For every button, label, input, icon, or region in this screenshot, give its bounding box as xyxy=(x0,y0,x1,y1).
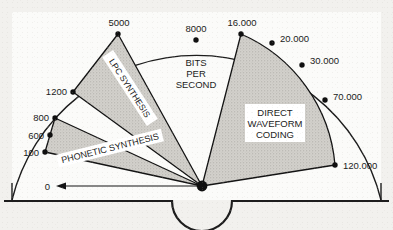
caption-line-1: BITS xyxy=(185,57,206,68)
sector-label-direct-waveform-coding: DIRECT WAVEFORM CODING xyxy=(245,104,305,142)
tick-dot-120000 xyxy=(332,162,337,167)
tick-label-30000: 30.000 xyxy=(310,55,339,66)
tick-dot-100 xyxy=(42,149,47,154)
tick-dot-70000 xyxy=(322,97,327,102)
tick-dot-5000 xyxy=(115,31,120,36)
tick-dot-600 xyxy=(47,132,52,137)
tick-label-600: 600 xyxy=(28,130,44,141)
isolated-marker-dot-8000 xyxy=(193,37,198,42)
tick-label-120000: 120.000 xyxy=(343,160,377,171)
tick-label-20000: 20.000 xyxy=(280,33,309,44)
tick-dot-30000 xyxy=(299,62,304,67)
figure-container: 100 600 800 1200 5000 16.000 20.000 30.0… xyxy=(0,0,393,230)
tick-label-5000: 5000 xyxy=(108,17,129,28)
baseline-with-notch xyxy=(4,201,389,230)
tick-label-8000: 8000 xyxy=(185,23,206,34)
tick-label-16000: 16.000 xyxy=(227,17,256,28)
tick-dot-1200 xyxy=(70,89,75,94)
tick-dot-800 xyxy=(52,115,57,120)
tick-label-100: 100 xyxy=(23,147,39,158)
caption-line-3: SECOND xyxy=(176,79,217,90)
dwc-line-3: CODING xyxy=(256,129,294,140)
tick-label-1200: 1200 xyxy=(46,86,67,97)
tick-label-800: 800 xyxy=(33,112,49,123)
zero-axis-label: 0 xyxy=(45,181,50,192)
radial-bitrate-diagram: 100 600 800 1200 5000 16.000 20.000 30.0… xyxy=(0,0,393,230)
caption-line-2: PER xyxy=(186,68,206,79)
tick-label-70000: 70.000 xyxy=(333,91,362,102)
dwc-line-1: DIRECT xyxy=(257,107,293,118)
hub-center xyxy=(197,181,208,192)
tick-dot-16000 xyxy=(238,31,243,36)
tick-dot-20000 xyxy=(269,40,274,45)
dwc-line-2: WAVEFORM xyxy=(248,118,303,129)
